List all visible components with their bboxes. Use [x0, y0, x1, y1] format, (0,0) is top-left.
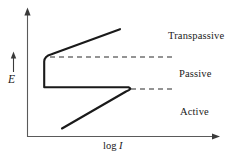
x-axis-label-prefix: log: [103, 140, 119, 151]
x-axis-label-variable: I: [119, 140, 123, 151]
region-label-passive: Passive: [179, 68, 212, 79]
anodic-polarization-curve: [44, 29, 130, 128]
x-axis-arrow-icon: [212, 133, 220, 139]
y-direction-arrow-head: [11, 52, 16, 59]
y-axis-arrow-icon: [24, 8, 30, 16]
region-label-active: Active: [180, 106, 209, 117]
region-label-transpassive: Transpassive: [168, 30, 224, 41]
figure-canvas: [0, 0, 234, 160]
y-axis-label: E: [8, 73, 15, 85]
x-axis: [28, 133, 221, 139]
y-axis: [24, 8, 30, 138]
x-axis-label: log I: [103, 140, 123, 151]
polarization-curve-figure: Transpassive Passive Active E log I: [0, 0, 234, 160]
y-direction-arrow-icon: [11, 52, 16, 73]
